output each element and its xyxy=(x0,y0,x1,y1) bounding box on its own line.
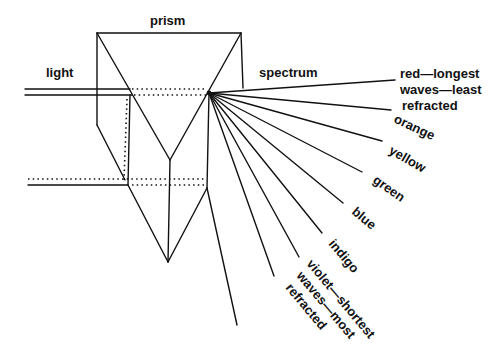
light-label: light xyxy=(46,65,74,80)
svg-text:red—longest: red—longest xyxy=(400,66,480,81)
label-blue: blue xyxy=(349,204,379,233)
prism-center-edge xyxy=(168,160,170,262)
prism-right-edge xyxy=(241,33,243,88)
prism-inner-vertical-edge xyxy=(207,93,209,188)
ray-bottom xyxy=(207,188,237,325)
prism xyxy=(97,33,243,262)
svg-text:refracted: refracted xyxy=(402,98,458,113)
prism-label: prism xyxy=(150,13,185,28)
ray-yellow xyxy=(209,93,382,141)
prism-left-lower-edge xyxy=(97,125,125,180)
label-indigo: indigo xyxy=(326,236,363,276)
label-green: green xyxy=(370,172,408,205)
hidden-back-edge xyxy=(124,99,127,180)
ray-violet xyxy=(209,93,299,257)
label-orange: orange xyxy=(392,111,438,143)
label-yellow: yellow xyxy=(387,143,430,176)
svg-text:waves—least: waves—least xyxy=(399,82,482,97)
prism-back-vertical-edge xyxy=(128,95,130,185)
ray-indigo xyxy=(209,93,322,233)
prism-front-left-edge xyxy=(97,33,170,160)
prism-front-right-edge xyxy=(170,33,241,160)
light-beam xyxy=(25,89,207,185)
label-red: red—longest waves—least refracted xyxy=(399,66,482,113)
prism-bottom-left-edge xyxy=(128,185,168,262)
label-violet: violet—shortest waves—most refracted xyxy=(283,256,379,342)
prism-dispersion-diagram: prism light spectrum red—longest waves—l… xyxy=(0,0,502,350)
prism-bottom-right-edge xyxy=(168,188,207,262)
ray-red xyxy=(209,80,395,93)
spectrum-label: spectrum xyxy=(259,65,318,80)
